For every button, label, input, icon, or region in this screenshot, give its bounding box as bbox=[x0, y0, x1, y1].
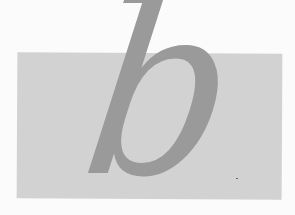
scan-speck bbox=[236, 178, 238, 179]
